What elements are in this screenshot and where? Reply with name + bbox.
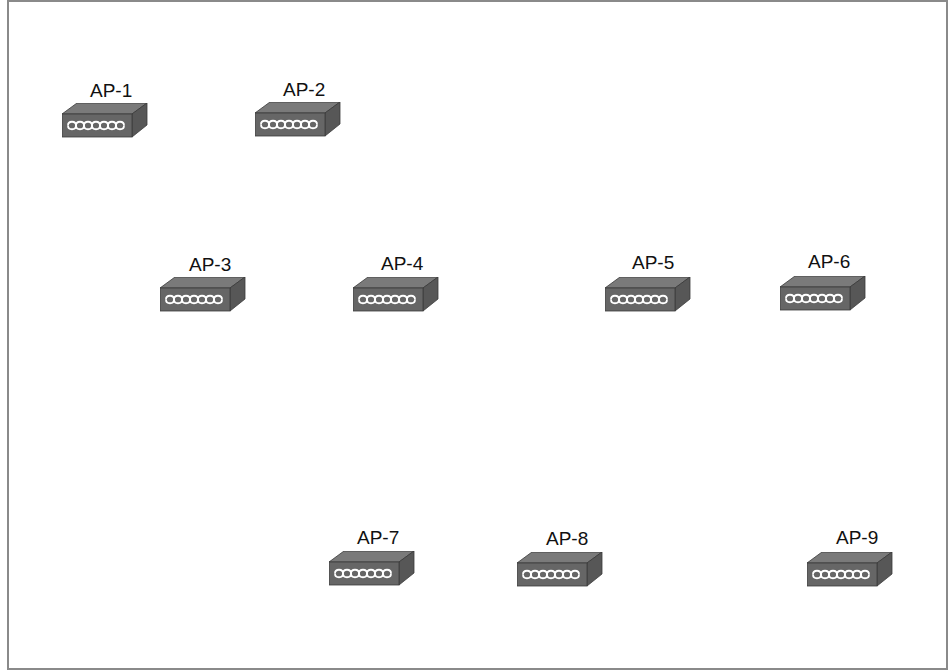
access-point-label: AP-5: [632, 252, 674, 274]
access-point-label: AP-2: [283, 79, 325, 101]
access-point-icon: [780, 276, 868, 312]
access-point-icon: [62, 103, 150, 139]
access-point-label: AP-9: [836, 527, 878, 549]
access-point-icon: [353, 277, 441, 313]
access-point-icon: [255, 102, 343, 138]
access-point-icon: [329, 551, 417, 587]
access-point-label: AP-7: [357, 527, 399, 549]
access-point-label: AP-4: [381, 253, 423, 275]
access-point-icon: [160, 277, 248, 313]
access-point-label: AP-3: [189, 254, 231, 276]
access-point-label: AP-6: [808, 251, 850, 273]
access-point-label: AP-8: [546, 528, 588, 550]
access-point-icon: [605, 277, 693, 313]
access-point-icon: [517, 552, 605, 588]
access-point-icon: [807, 552, 895, 588]
access-point-label: AP-1: [90, 80, 132, 102]
